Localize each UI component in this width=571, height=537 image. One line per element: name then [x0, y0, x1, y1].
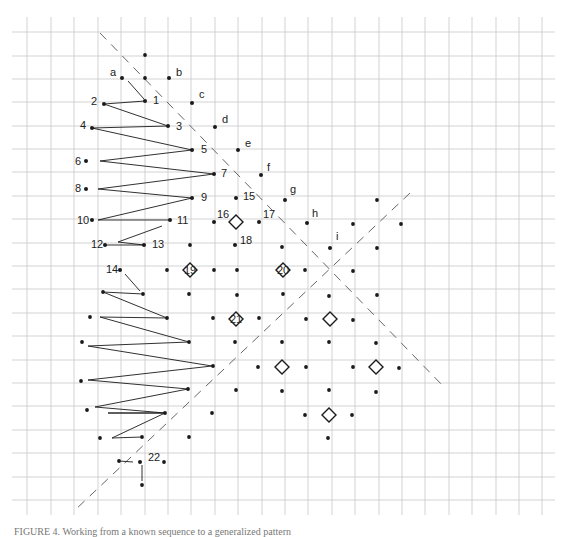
dot-point — [140, 483, 144, 487]
dot-point — [399, 222, 403, 226]
dot-point — [256, 365, 260, 369]
dot-point — [187, 292, 191, 296]
labeled-dot-point — [120, 76, 124, 80]
dot-point — [375, 246, 379, 250]
point-label: 8 — [75, 182, 81, 194]
point-label: 11 — [177, 214, 188, 226]
dot-point — [188, 243, 192, 247]
point-label: h — [312, 207, 318, 219]
labeled-dot-point — [118, 268, 122, 272]
diamond-label: 19 — [184, 264, 196, 276]
diamond-label: 21 — [230, 313, 242, 325]
labeled-dot-point — [233, 243, 237, 247]
dot-point — [211, 316, 215, 320]
dot-point — [187, 340, 191, 344]
point-label: 17 — [263, 208, 275, 220]
labeled-dot-point — [212, 172, 216, 176]
labeled-dot-point — [143, 99, 147, 103]
dot-point — [303, 413, 307, 417]
diamond-label: 20 — [277, 264, 289, 276]
dot-point — [187, 435, 191, 439]
dot-point — [304, 317, 308, 321]
labeled-dot-point — [259, 173, 263, 177]
point-label: i — [336, 230, 338, 242]
labeled-dot-point — [102, 102, 106, 106]
dot-point — [140, 435, 144, 439]
labeled-dot-point — [103, 243, 107, 247]
dot-point — [117, 459, 121, 463]
dot-point — [327, 294, 331, 298]
dot-point — [350, 413, 354, 417]
dot-point — [280, 245, 284, 249]
dot-point — [326, 436, 330, 440]
labeled-dot-point — [190, 101, 194, 105]
dot-point — [212, 268, 216, 272]
dot-point — [235, 293, 239, 297]
dot-point — [327, 340, 331, 344]
dot-point — [351, 222, 355, 226]
point-label: 16 — [217, 208, 229, 220]
dot-point — [186, 387, 190, 391]
point-label: 15 — [243, 190, 255, 202]
dot-point — [162, 460, 166, 464]
dot-point — [351, 269, 355, 273]
point-label: 13 — [152, 238, 164, 250]
dot-point — [303, 268, 307, 272]
dot-point — [163, 411, 167, 415]
point-label: 1 — [153, 94, 159, 106]
point-label: g — [290, 183, 296, 195]
labeled-dot-point — [166, 124, 170, 128]
dot-point — [233, 340, 237, 344]
point-label: d — [222, 113, 228, 125]
dot-point — [351, 365, 355, 369]
point-label: 3 — [176, 120, 182, 132]
dot-point — [374, 390, 378, 394]
point-label: b — [176, 66, 182, 78]
labeled-dot-point — [90, 126, 94, 130]
point-label: 10 — [77, 214, 89, 226]
dot-point — [375, 198, 379, 202]
point-label: 2 — [91, 95, 97, 107]
dot-point — [165, 268, 169, 272]
dot-point — [374, 341, 378, 345]
point-label: 6 — [75, 155, 81, 167]
dot-point — [101, 290, 105, 294]
point-label: 9 — [201, 191, 207, 203]
point-label: 4 — [80, 119, 86, 131]
point-label: 22 — [148, 451, 160, 463]
dot-point — [304, 365, 308, 369]
labeled-dot-point — [84, 159, 88, 163]
dot-point — [80, 340, 84, 344]
dot-point — [85, 408, 89, 412]
point-label: c — [199, 88, 205, 100]
labeled-dot-point — [168, 218, 172, 222]
dot-point — [88, 315, 92, 319]
labeled-dot-point — [257, 220, 261, 224]
point-label: a — [110, 66, 117, 78]
dot-point — [235, 268, 239, 272]
dot-point — [210, 411, 214, 415]
dot-point — [143, 53, 147, 57]
labeled-dot-point — [283, 198, 287, 202]
point-label: 18 — [240, 234, 252, 246]
dot-pattern-diagram: 192021 ab1c23d45e67f8915g10111617h121318… — [0, 0, 571, 537]
dot-point — [375, 293, 379, 297]
labeled-dot-point — [236, 148, 240, 152]
labeled-dot-point — [305, 221, 309, 225]
dot-point — [280, 389, 284, 393]
point-label: e — [245, 137, 251, 149]
labeled-dot-point — [167, 76, 171, 80]
labeled-dot-point — [212, 220, 216, 224]
dot-point — [327, 388, 331, 392]
dot-point — [281, 292, 285, 296]
dot-point — [257, 316, 261, 320]
labeled-dot-point — [190, 148, 194, 152]
labeled-dot-point — [138, 460, 142, 464]
dot-point — [79, 379, 83, 383]
labeled-dot-point — [213, 125, 217, 129]
point-label: 12 — [91, 238, 103, 250]
dot-point — [397, 366, 401, 370]
labeled-dot-point — [90, 218, 94, 222]
labeled-dot-point — [84, 187, 88, 191]
dot-point — [141, 292, 145, 296]
